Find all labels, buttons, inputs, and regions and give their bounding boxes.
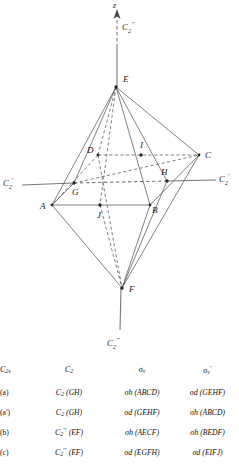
svg-text:′′: ′′: [132, 20, 136, 28]
svg-text:2: 2: [9, 184, 12, 190]
header-cell-sigma-v: σv: [108, 358, 176, 382]
table-row: (a′) C2(GH) σd(GEHF) σh(ABCD): [0, 402, 239, 422]
row-cell-c2: C2′′(EF): [30, 422, 108, 442]
row-cell-sigma-v: σh(ABCD): [108, 382, 176, 402]
row-cell-sigma-v: σh(AECF): [108, 422, 176, 442]
row-cell-sigma-v-prime: σd(GEHF): [176, 382, 239, 402]
svg-text:′′: ′′: [117, 336, 121, 344]
vertex-label-A: A: [39, 201, 46, 211]
svg-text:′: ′: [12, 176, 14, 184]
vertical-axis-bottom-label: C 2 ′′: [107, 336, 121, 350]
z-axis-label: z: [112, 1, 117, 10]
vertex-label-D: D: [86, 145, 94, 155]
horizontal-axis: [22, 180, 216, 185]
vertical-axis-lower: [120, 288, 121, 330]
svg-text:2: 2: [225, 180, 228, 186]
svg-text:2: 2: [113, 344, 116, 350]
row-case-label: (a′): [0, 402, 30, 422]
vertical-axis-upper: [113, 9, 120, 87]
octahedron-figure: z C 2 ′′ C 2 ′′ C 2 ′ C 2 ′ E D I C G: [0, 0, 239, 358]
vertical-axis-top-label: C 2 ′′: [122, 20, 136, 34]
row-cell-sigma-v-prime: σd(EIFJ): [176, 442, 239, 462]
vertex-label-F: F: [128, 284, 135, 294]
right-axis-label: C 2 ′: [219, 172, 230, 186]
vertex-label-G: G: [72, 187, 79, 197]
vertex-label-J: J: [97, 210, 102, 220]
row-case-label: (c): [0, 442, 30, 462]
table-row: (b) C2′′(EF) σh(AECF) σh(BEDF): [0, 422, 239, 442]
svg-text:′: ′: [228, 172, 230, 180]
row-cell-sigma-v: σd(GEHF): [108, 402, 176, 422]
row-case-label: (b): [0, 422, 30, 442]
symmetry-table: C2v C2 σv σv′ (a) C2(GH): [0, 358, 239, 472]
table-header-row: C2v C2 σv σv′: [0, 358, 239, 382]
vertex-label-E: E: [122, 74, 129, 84]
vertex-label-B: B: [152, 205, 158, 215]
header-cell-corner: C2v: [0, 358, 30, 382]
left-axis-label: C 2 ′: [3, 176, 14, 190]
row-cell-c2: C2(GH): [30, 402, 108, 422]
row-cell-sigma-v-prime: σh(BEDF): [176, 422, 239, 442]
row-case-label: (a): [0, 382, 30, 402]
row-cell-c2: C2(GH): [30, 382, 108, 402]
svg-text:2: 2: [128, 28, 131, 34]
header-cell-c2: C2: [30, 358, 108, 382]
vertex-label-C: C: [205, 150, 212, 160]
table-row: (a) C2(GH) σh(ABCD) σd(GEHF): [0, 382, 239, 402]
row-cell-sigma-v: σd(EGFH): [108, 442, 176, 462]
vertex-label-H: H: [160, 167, 168, 177]
row-cell-sigma-v-prime: σh(ABCD): [176, 402, 239, 422]
row-cell-c2: C2′′(EF): [30, 442, 108, 462]
table-row: (c) C2′′(EF) σd(EGFH) σd(EIFJ): [0, 442, 239, 462]
header-cell-sigma-v-prime: σv′: [176, 358, 239, 382]
vertex-label-I: I: [139, 140, 144, 150]
